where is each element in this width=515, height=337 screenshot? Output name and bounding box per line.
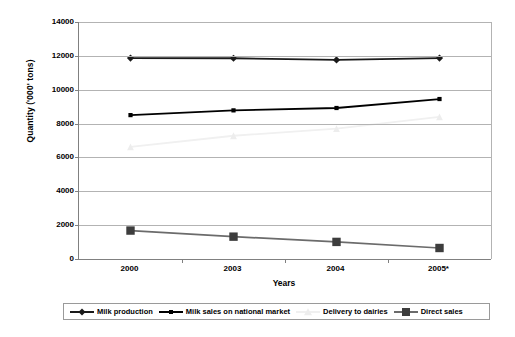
x-axis-tick-label: 2003 [203,264,263,273]
legend-item[interactable]: Direct sales [388,307,463,317]
data-point-marker [126,226,134,234]
series-delivery-to-dairies [127,113,443,150]
gridline [79,191,491,192]
x-axis-tick-label: 2005* [409,264,469,273]
y-axis-tickmark [75,56,79,57]
data-point-marker [334,106,338,110]
data-point-marker [229,232,237,240]
data-point-marker [128,113,132,117]
y-axis-tick-label: 2000 [30,221,74,229]
y-axis-tickmark [75,90,79,91]
gridline [79,124,491,125]
x-axis-tickmark [182,259,183,263]
gridline [79,225,491,226]
legend-item[interactable]: Milk sales on national market [153,307,290,317]
gridline [79,56,491,57]
data-point-marker [231,108,235,112]
x-axis-tick-label: 2000 [100,264,160,273]
x-axis-title: Years [78,278,490,288]
line-chart: Quantity ('000' tons) 020004000600080001… [0,0,515,337]
y-axis-tick-label: 14000 [30,18,74,26]
legend-label: Milk sales on national market [186,307,290,316]
data-point-marker [332,238,340,246]
series-line [131,117,440,147]
x-axis-tickmark [388,259,389,263]
y-axis-tickmark [75,259,79,260]
y-axis-tick-label: 4000 [30,187,74,195]
legend-label: Milk production [97,307,153,316]
legend-marker-icon [70,307,94,317]
y-axis-tickmark [75,22,79,23]
legend-marker-icon [394,307,418,317]
gridline [79,90,491,91]
legend-marker-icon [159,307,183,317]
y-axis-tick-label: 12000 [30,52,74,60]
plot-area [78,22,491,260]
y-axis-tick-label: 0 [30,255,74,263]
data-point-marker [435,244,443,252]
series-layer [79,22,491,259]
gridline [79,157,491,158]
series-line [131,58,440,60]
x-axis-tick-label: 2004 [306,264,366,273]
legend-item[interactable]: Milk production [64,307,153,317]
y-axis-tickmark [75,225,79,226]
gridline [79,22,491,23]
series-line [131,99,440,115]
y-axis-tick-label: 6000 [30,153,74,161]
legend-label: Direct sales [421,307,463,316]
series-line [131,231,440,248]
x-axis-tickmark [285,259,286,263]
y-axis-tick-labels: 02000400060008000100001200014000 [28,0,74,337]
series-direct-sales [126,226,443,252]
y-axis-tickmark [75,124,79,125]
y-axis-tickmark [75,191,79,192]
data-point-marker [437,97,441,101]
legend-marker-icon [296,307,320,317]
legend-item[interactable]: Delivery to dairies [290,307,388,317]
plot-right-edge [491,22,492,259]
legend-label: Delivery to dairies [323,307,388,316]
data-point-marker [333,56,340,63]
y-axis-tick-label: 8000 [30,120,74,128]
y-axis-tick-label: 10000 [30,86,74,94]
y-axis-tickmark [75,157,79,158]
series-milk-sales-on-national-market [128,97,441,117]
chart-legend: Milk productionMilk sales on national ma… [63,303,490,320]
